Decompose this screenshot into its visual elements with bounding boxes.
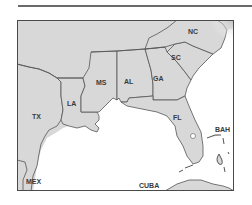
label-al: AL (124, 78, 134, 85)
map-svg: NC SC GA AL MS LA TX FL BAH MEX CUBA (17, 20, 234, 191)
shading-overlay (167, 20, 234, 80)
label-sc: SC (171, 54, 181, 61)
label-tx: TX (32, 113, 41, 120)
top-divider-line (18, 5, 252, 7)
label-cuba: CUBA (139, 182, 159, 189)
label-nc: NC (188, 28, 198, 35)
label-ms: MS (96, 79, 107, 86)
label-ga: GA (153, 75, 164, 82)
label-fl: FL (173, 114, 182, 121)
label-mex: MEX (26, 178, 42, 185)
label-la: LA (67, 100, 76, 107)
label-bah: BAH (215, 126, 230, 133)
lake-okeechobee (191, 134, 196, 139)
southeast-us-map: NC SC GA AL MS LA TX FL BAH MEX CUBA (17, 20, 234, 191)
